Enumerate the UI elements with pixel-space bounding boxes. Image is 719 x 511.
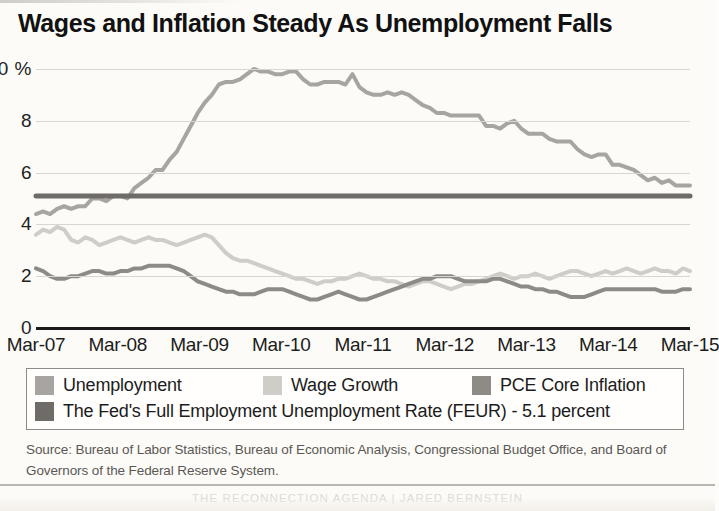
legend-swatch-unemployment — [35, 376, 54, 395]
legend-label-wage-growth: Wage Growth — [291, 375, 398, 396]
legend-label-unemployment: Unemployment — [63, 375, 182, 396]
gridline-10 — [36, 69, 690, 70]
legend-label-pce-core-inflation: PCE Core Inflation — [500, 375, 645, 396]
plot-area: 0246810 % — [0, 56, 715, 336]
gridline-2 — [36, 276, 690, 277]
legend-swatch-feur — [35, 402, 54, 421]
series-line-pce-core-inflation — [36, 266, 690, 300]
legend-item-pce-core-inflation[interactable]: PCE Core Inflation — [472, 375, 645, 396]
legend-item-feur[interactable]: The Fed's Full Employment Unemployment R… — [35, 401, 610, 422]
scan-artifact-bottom — [0, 497, 715, 511]
footer-divider — [0, 484, 715, 486]
scan-artifact-top — [0, 0, 240, 3]
gridline-8 — [36, 121, 690, 122]
legend-swatch-wage-growth — [263, 376, 282, 395]
series-line-wage-growth — [36, 227, 690, 289]
y-tick-label-4: 4 — [21, 213, 32, 235]
gridline-4 — [36, 224, 690, 225]
x-tick-label-mar-08: Mar-08 — [89, 334, 147, 356]
legend-item-unemployment[interactable]: Unemployment — [35, 375, 182, 396]
legend-row-bottom: The Fed's Full Employment Unemployment R… — [35, 401, 675, 427]
x-tick-label-mar-09: Mar-09 — [170, 334, 228, 356]
gridline-6 — [36, 173, 690, 174]
x-axis-line — [36, 327, 690, 330]
x-tick-label-mar-10: Mar-10 — [252, 334, 310, 356]
x-tick-label-mar-11: Mar-11 — [335, 334, 392, 356]
x-tick-label-mar-07: Mar-07 — [7, 334, 65, 356]
legend-label-feur: The Fed's Full Employment Unemployment R… — [63, 401, 610, 422]
legend-row-top: Unemployment Wage Growth PCE Core Inflat… — [35, 375, 675, 401]
y-tick-label-8: 8 — [21, 110, 32, 132]
plot-canvas — [36, 56, 690, 328]
y-tick-label-6: 6 — [21, 162, 32, 184]
chart-legend: Unemployment Wage Growth PCE Core Inflat… — [26, 368, 684, 430]
y-tick-label-2: 2 — [21, 265, 32, 287]
source-note: Source: Bureau of Labor Statistics, Bure… — [26, 440, 676, 482]
y-tick-label-10: 10 % — [0, 58, 32, 80]
x-axis-labels: Mar-07Mar-08Mar-09Mar-10Mar-11Mar-12Mar-… — [36, 334, 690, 360]
x-tick-label-mar-12: Mar-12 — [416, 334, 474, 356]
series-line-unemployment — [36, 69, 690, 214]
legend-swatch-pce-core-inflation — [472, 376, 491, 395]
y-axis-labels: 0246810 % — [0, 56, 36, 328]
page-title: Wages and Inflation Steady As Unemployme… — [18, 10, 698, 38]
x-tick-label-mar-15: Mar-15 — [661, 334, 719, 356]
x-tick-label-mar-13: Mar-13 — [497, 334, 555, 356]
x-tick-label-mar-14: Mar-14 — [579, 334, 637, 356]
legend-item-wage-growth[interactable]: Wage Growth — [263, 375, 398, 396]
series-lines — [36, 56, 690, 328]
